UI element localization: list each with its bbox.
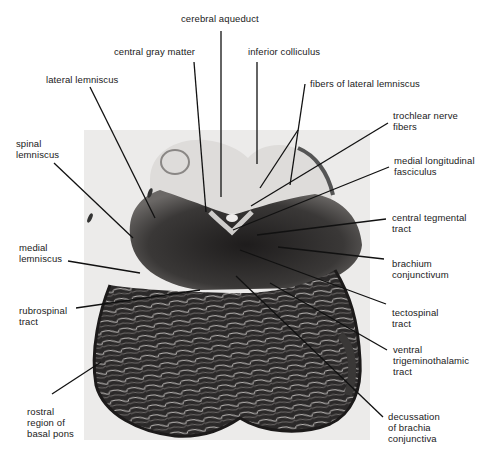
label-trochlear-nerve-fibers: trochlear nerve fibers [393,110,458,132]
label-central-gray-matter: central gray matter [114,46,195,57]
label-medial-lemniscus: medial lemniscus [19,242,62,264]
leader-spinal-lemniscus [54,163,133,238]
leader-lateral-lemniscus [90,87,155,218]
label-fibers-of-lateral-lemniscus: fibers of lateral lemniscus [310,78,420,89]
label-decussation-of-brachia-conjunctiva: decussation of brachia conjunctiva [388,411,440,444]
label-rubrospinal-tract: rubrospinal tract [19,305,67,327]
label-brachium-conjunctivum: brachium conjunctivum [392,258,449,280]
label-lateral-lemniscus: lateral lemniscus [46,74,118,85]
label-cerebral-aqueduct: cerebral aqueduct [181,13,259,24]
label-central-tegmental-tract: central tegmental tract [392,212,467,234]
basal-pons-region [94,270,360,436]
leader-medial-lemniscus [68,261,140,273]
anatomy-figure: cerebral aqueduct central gray matter in… [0,0,497,453]
label-rostral-region-of-basal-pons: rostral region of basal pons [27,406,74,439]
label-ventral-trigeminothalamic-tract: ventral trigeminothalamic tract [393,344,469,377]
label-spinal-lemniscus: spinal lemniscus [16,138,59,160]
label-inferior-colliculus: inferior colliculus [248,46,320,57]
label-tectospinal-tract: tectospinal tract [392,307,439,329]
label-medial-longitudinal-fasciculus: medial longitudinal fasciculus [394,155,475,177]
